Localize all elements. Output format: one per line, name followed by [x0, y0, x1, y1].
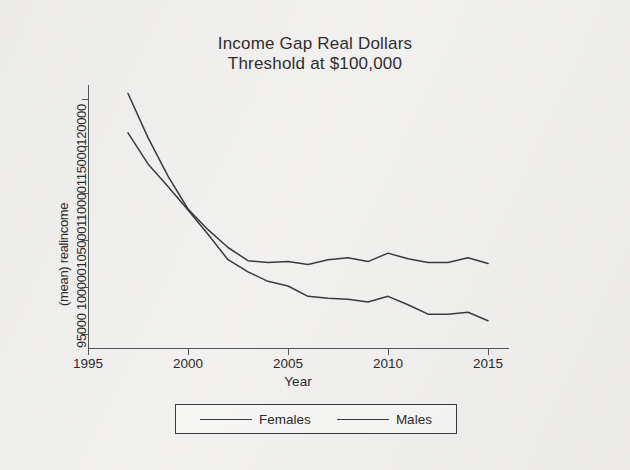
chart-figure: Income Gap Real Dollars Threshold at $10…: [0, 0, 630, 470]
x-tick: [188, 349, 189, 355]
x-tick-label: 2010: [373, 356, 403, 371]
y-axis-title: (mean) realincome: [56, 203, 71, 306]
x-tick: [88, 349, 89, 355]
legend-item-females: Females: [200, 412, 311, 427]
chart-legend: Females Males: [175, 404, 457, 434]
chart-title: Income Gap Real Dollars: [0, 34, 630, 54]
legend-line-icon: [337, 419, 389, 420]
x-tick-label: 2000: [173, 356, 203, 371]
x-tick: [488, 349, 489, 355]
x-tick-label: 2005: [273, 356, 303, 371]
y-axis-tick-labels: 95000 100000105000110000115000120000: [74, 104, 89, 348]
legend-label-females: Females: [259, 412, 311, 427]
x-tick-label: 2015: [473, 356, 503, 371]
x-tick-label: 1995: [73, 356, 103, 371]
x-axis-title: Year: [284, 374, 311, 389]
series-females: [128, 133, 488, 321]
legend-label-males: Males: [396, 412, 432, 427]
x-tick: [388, 349, 389, 355]
x-tick: [288, 349, 289, 355]
chart-subtitle: Threshold at $100,000: [0, 54, 630, 74]
x-axis-line: [88, 348, 509, 349]
series-canvas: [88, 85, 508, 348]
plot-area: [88, 85, 508, 348]
legend-line-icon: [200, 419, 252, 420]
legend-item-males: Males: [337, 412, 432, 427]
series-males: [128, 93, 488, 264]
